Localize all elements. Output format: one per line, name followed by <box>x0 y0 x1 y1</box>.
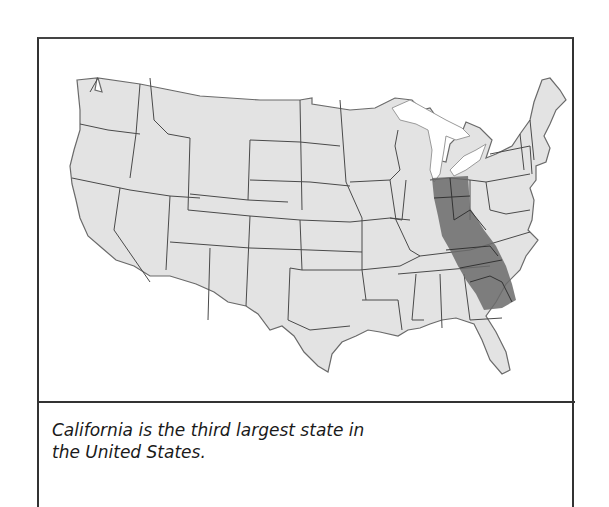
figure-caption: California is the third largest state in… <box>52 419 552 463</box>
caption-line-2: the United States. <box>52 441 552 463</box>
us-map <box>50 70 570 400</box>
caption-line-1: California is the third largest state in <box>52 419 552 441</box>
caption-divider <box>37 401 575 403</box>
